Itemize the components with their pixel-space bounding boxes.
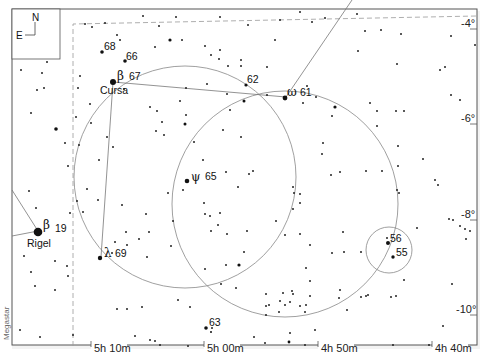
lambda-number: 69 <box>115 247 127 259</box>
rigel-greek: β <box>43 218 50 232</box>
cursa-name: Cursa <box>100 84 128 96</box>
star-66-number: 66 <box>126 50 138 62</box>
ra-label-5h10m: 5h 10m <box>94 342 131 354</box>
ra-label-4h50m: 4h 50m <box>321 342 358 354</box>
star-63-number: 63 <box>209 316 221 328</box>
compass-north-label: N <box>32 12 39 23</box>
star-55-number: 55 <box>396 246 408 258</box>
star-66: 66 <box>123 50 138 63</box>
rigel-name: Rigel <box>27 237 51 249</box>
chart-frame <box>12 9 477 345</box>
star-chart: N E <box>0 0 486 359</box>
psi-greek: ψ <box>191 170 200 184</box>
dec-label-minus6: -6° <box>461 112 475 124</box>
compass-east-label: E <box>16 30 23 41</box>
omega-greek: ω <box>287 85 297 99</box>
omega-number: 61 <box>300 86 312 98</box>
star-62: 62 <box>244 73 258 87</box>
ra-label-4h40m: 4h 40m <box>435 342 472 354</box>
dec-label-minus10: -10° <box>456 303 476 315</box>
cursa-greek: β <box>117 69 124 83</box>
dec-label-minus8: -8° <box>461 208 475 220</box>
psi-number: 65 <box>205 170 217 182</box>
dec-label-minus4: -4° <box>461 17 475 29</box>
software-credit: Megastar <box>2 306 11 340</box>
ra-label-5h00m: 5h 00m <box>207 342 244 354</box>
star-62-number: 62 <box>247 73 259 85</box>
compass: N E <box>12 9 60 59</box>
lambda-greek: λ <box>104 246 112 260</box>
cursa-number: 67 <box>129 70 141 82</box>
rigel-number: 19 <box>55 222 67 234</box>
star-68-number: 68 <box>104 40 116 52</box>
star-56-number: 56 <box>390 232 402 244</box>
